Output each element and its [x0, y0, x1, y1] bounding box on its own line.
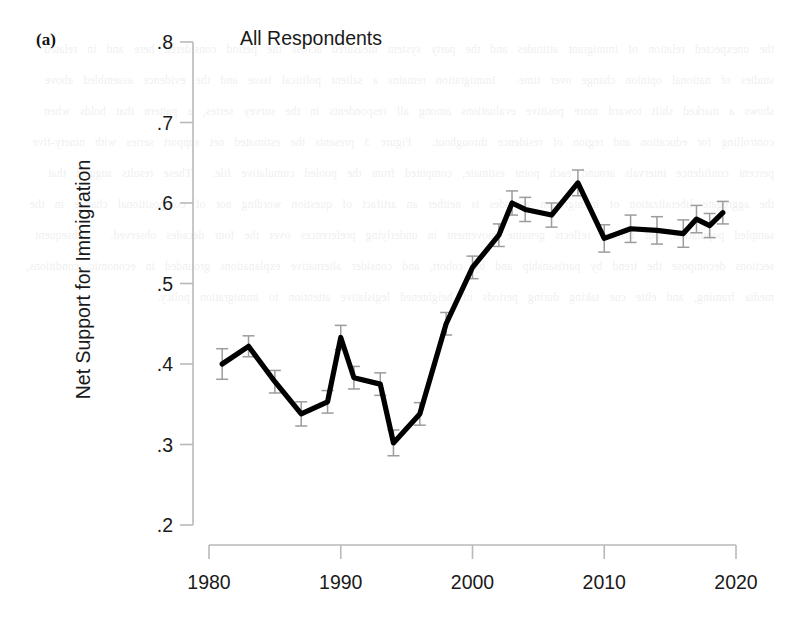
- y-axis-tick-label: .3: [157, 434, 173, 456]
- y-axis-tick-label: .7: [157, 112, 173, 134]
- x-axis-tick-label: 2010: [583, 571, 627, 593]
- y-axis-tick-label: .4: [157, 353, 173, 375]
- figure-panel: the unexpected relation of immigrant att…: [0, 0, 800, 639]
- x-axis: 19801990200020102020: [187, 545, 758, 593]
- line-chart: .2.3.4.5.6.7.8 19801990200020102020: [0, 0, 800, 639]
- y-axis-tick-label: .8: [157, 31, 173, 53]
- y-axis: .2.3.4.5.6.7.8: [157, 31, 193, 536]
- y-axis-tick-label: .5: [157, 273, 173, 295]
- data-series-line: [222, 183, 723, 443]
- error-bars: [216, 170, 729, 456]
- x-axis-tick-label: 2020: [714, 571, 758, 593]
- y-axis-tick-label: .2: [157, 514, 173, 536]
- x-axis-tick-label: 1990: [319, 571, 363, 593]
- series-path: [222, 183, 723, 443]
- x-axis-tick-label: 2000: [451, 571, 495, 593]
- x-axis-tick-label: 1980: [187, 571, 231, 593]
- y-axis-tick-label: .6: [157, 192, 173, 214]
